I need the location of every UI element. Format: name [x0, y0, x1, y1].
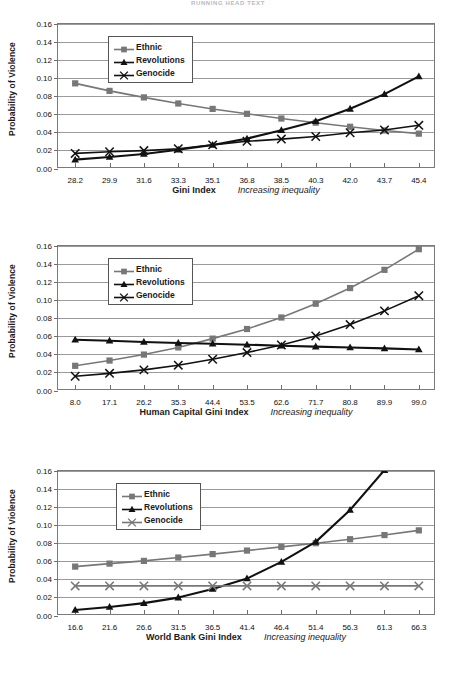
chart-list: Probability of Violence0.000.020.040.060…	[0, 9, 456, 677]
y-axis-tick-label: 0.14	[36, 42, 52, 43]
series-revolutions	[71, 72, 422, 162]
y-axis-tick-label: 0.08	[36, 96, 52, 97]
legend-item-genocide: Genocide	[113, 66, 185, 79]
legend-item-ethnic: Ethnic	[113, 40, 185, 53]
cross-marker-icon	[113, 289, 135, 300]
y-axis-tick-label: 0.04	[36, 132, 52, 133]
y-axis-tick-label: 0.08	[36, 318, 52, 319]
y-axis-tick-label: 0.16	[36, 246, 52, 247]
world-bank-gini-index-chart: Probability of Violence0.000.020.040.060…	[0, 456, 456, 677]
chart-legend: EthnicRevolutionsGenocide	[116, 483, 201, 530]
legend-item-label: Genocide	[136, 68, 175, 78]
y-axis-tick-label: 0.16	[36, 24, 52, 25]
legend-item-revolutions: Revolutions	[113, 275, 185, 288]
y-axis-tick-label: 0.04	[36, 354, 52, 355]
y-axis-title-text: Probability of Violence	[7, 42, 17, 136]
legend-item-label: Ethnic	[136, 42, 162, 52]
legend-item-genocide: Genocide	[121, 513, 193, 526]
x-axis-note: Increasing inequality	[270, 407, 352, 417]
x-axis-caption: Human Capital Gini IndexIncreasing inequ…	[57, 401, 435, 419]
x-axis-title: Human Capital Gini Index	[139, 407, 248, 417]
y-tick-mark	[54, 391, 58, 392]
cross-marker-icon	[121, 514, 143, 525]
x-axis-title: Gini Index	[172, 185, 216, 195]
legend-item-label: Ethnic	[144, 489, 170, 499]
chart-legend: EthnicRevolutionsGenocide	[108, 36, 193, 83]
legend-item-ethnic: Ethnic	[121, 487, 193, 500]
plot-area: 0.000.020.040.060.080.100.120.140.1628.2…	[57, 23, 435, 168]
square-marker-icon	[113, 263, 135, 274]
y-axis-tick-label: 0.04	[36, 579, 52, 580]
chart-legend: EthnicRevolutionsGenocide	[108, 258, 193, 305]
legend-item-ethnic: Ethnic	[113, 262, 185, 275]
x-axis-title: World Bank Gini Index	[146, 632, 242, 642]
triangle-marker-icon	[113, 54, 135, 65]
x-axis-caption: World Bank Gini IndexIncreasing inequali…	[57, 626, 435, 644]
legend-item-label: Genocide	[136, 290, 175, 300]
y-axis-tick-label: 0.10	[36, 78, 52, 79]
y-axis-tick-label: 0.02	[36, 150, 52, 151]
legend-item-revolutions: Revolutions	[121, 500, 193, 513]
y-axis-tick-label: 0.06	[36, 336, 52, 337]
y-axis-tick-label: 0.14	[36, 489, 52, 490]
y-axis-tick-label: 0.06	[36, 561, 52, 562]
y-axis-title: Probability of Violence	[4, 9, 20, 169]
y-axis-title-text: Probability of Violence	[7, 489, 17, 583]
page-running-header: RUNNING HEAD TEXT	[0, 0, 456, 8]
y-axis-tick-label: 0.00	[36, 391, 52, 392]
gini-index-chart: Probability of Violence0.000.020.040.060…	[0, 9, 456, 231]
x-axis-note: Increasing inequality	[238, 185, 320, 195]
legend-item-revolutions: Revolutions	[113, 53, 185, 66]
y-axis-tick-label: 0.16	[36, 471, 52, 472]
y-axis-title: Probability of Violence	[4, 456, 20, 616]
triangle-marker-icon	[121, 501, 143, 512]
triangle-marker-icon	[113, 276, 135, 287]
series-layer	[58, 471, 434, 614]
y-tick-mark	[54, 616, 58, 617]
y-axis-tick-label: 0.12	[36, 282, 52, 283]
y-axis-tick-label: 0.08	[36, 543, 52, 544]
y-axis-tick-label: 0.12	[36, 60, 52, 61]
square-marker-icon	[121, 488, 143, 499]
square-marker-icon	[113, 41, 135, 52]
y-axis-tick-label: 0.02	[36, 597, 52, 598]
y-axis-tick-label: 0.00	[36, 616, 52, 617]
y-axis-tick-label: 0.06	[36, 114, 52, 115]
y-axis-tick-label: 0.00	[36, 169, 52, 170]
legend-item-label: Revolutions	[144, 502, 193, 512]
x-axis-caption: Gini IndexIncreasing inequality	[57, 179, 435, 197]
x-axis-note: Increasing inequality	[264, 632, 346, 642]
series-ethnic	[72, 527, 422, 569]
human-capital-gini-index-chart: Probability of Violence0.000.020.040.060…	[0, 231, 456, 456]
series-revolutions	[71, 336, 422, 353]
y-axis-title-text: Probability of Violence	[7, 264, 17, 358]
series-ethnic	[72, 80, 422, 136]
y-axis-tick-label: 0.14	[36, 264, 52, 265]
plot-area: 0.000.020.040.060.080.100.120.140.1616.6…	[57, 470, 435, 615]
y-axis-tick-label: 0.02	[36, 372, 52, 373]
series-genocide	[71, 582, 423, 590]
legend-item-label: Genocide	[144, 515, 183, 525]
legend-item-label: Revolutions	[136, 277, 185, 287]
y-axis-tick-label: 0.12	[36, 507, 52, 508]
plot-area: 0.000.020.040.060.080.100.120.140.168.01…	[57, 245, 435, 390]
y-tick-mark	[54, 169, 58, 170]
y-axis-tick-label: 0.10	[36, 525, 52, 526]
legend-item-label: Revolutions	[136, 55, 185, 65]
legend-item-label: Ethnic	[136, 264, 162, 274]
cross-marker-icon	[113, 67, 135, 78]
y-axis-title: Probability of Violence	[4, 231, 20, 391]
y-axis-tick-label: 0.10	[36, 300, 52, 301]
legend-item-genocide: Genocide	[113, 288, 185, 301]
